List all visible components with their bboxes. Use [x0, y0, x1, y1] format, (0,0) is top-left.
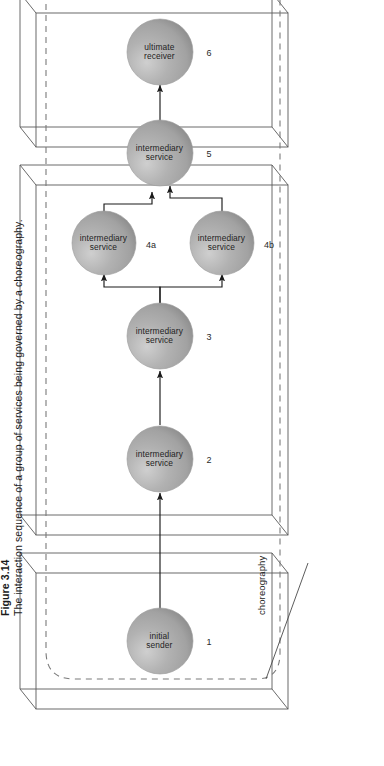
node-sphere-1	[127, 608, 193, 674]
figure-canvas: initial sender 1 intermediary service 2 …	[8, 0, 340, 731]
arrow-3-to-4b	[160, 274, 222, 303]
node-number-6: 6	[206, 48, 211, 58]
node-number-5: 5	[206, 149, 211, 159]
service-nodes	[72, 19, 254, 674]
figure-caption-block: Figure 3.14 The interaction sequence of …	[0, 146, 43, 616]
node-sphere-4a	[72, 211, 136, 275]
node-number-3: 3	[206, 332, 211, 342]
figure-caption-text: The interaction sequence of a group of s…	[12, 146, 25, 616]
node-number-4b: 4b	[264, 240, 274, 250]
node-sphere-4b	[190, 211, 254, 275]
figure-number: Figure 3.14	[0, 146, 12, 616]
node-number-4a: 4a	[146, 240, 156, 250]
arrow-4b-to-5	[170, 186, 222, 216]
node-number-2: 2	[206, 455, 211, 465]
figure-canvas-rotated: initial sender 1 intermediary service 2 …	[8, 0, 340, 731]
node-sphere-5	[127, 120, 193, 186]
choreography-callout: choreography	[256, 531, 272, 615]
figure-page: initial sender 1 intermediary service 2 …	[0, 0, 384, 766]
diagram-svg	[8, 0, 340, 731]
choreography-callout-label: choreography	[256, 531, 267, 615]
node-sphere-3	[127, 303, 193, 369]
node-number-1: 1	[206, 637, 211, 647]
node-sphere-6	[127, 19, 193, 85]
arrow-3-to-4a	[104, 274, 160, 303]
node-sphere-2	[127, 426, 193, 492]
